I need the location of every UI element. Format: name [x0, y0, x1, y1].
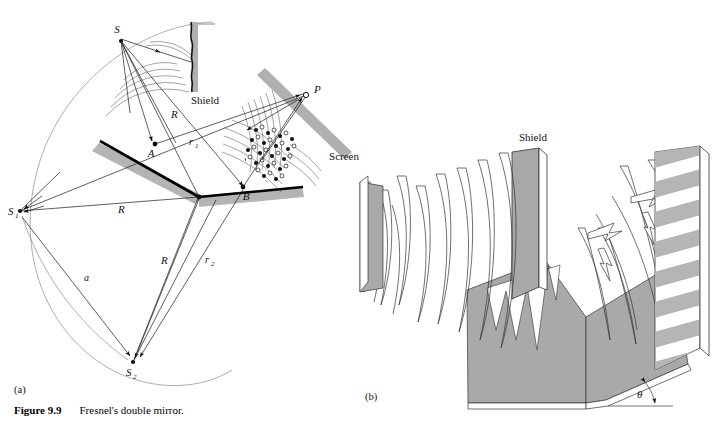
panel-a-group: S S 1 S 2 A B P Shield Screen R R R r 1 … [8, 22, 359, 396]
source-point-marker [119, 39, 123, 43]
figure-number: Figure 9.9 [14, 404, 61, 416]
figure-9-9-illustration: S S 1 S 2 A B P Shield Screen R R R r 1 … [0, 0, 726, 431]
label-radius-3: R [160, 254, 168, 266]
point-p-marker [303, 92, 308, 97]
label-shield-b: Shield [519, 131, 548, 143]
shield-panel-edge-3d [539, 148, 547, 290]
label-ray-r1-subscript: 1 [195, 142, 199, 150]
rays-from-image-source-2 [22, 190, 243, 362]
propagation-arrows-3d [588, 189, 666, 281]
label-image-source-1-subscript: 1 [15, 212, 19, 220]
label-image-source-2: S [126, 366, 132, 378]
panel-b-label: (b) [365, 391, 378, 403]
label-ray-r2-subscript: 2 [211, 260, 215, 268]
figure-caption-text: Fresnel's double mirror. [79, 404, 183, 416]
label-radius-2: R [117, 203, 125, 215]
screen-bar [257, 68, 352, 159]
left-mirror-plane-edge [468, 403, 586, 409]
image-source-2-marker [131, 360, 135, 364]
figure-caption: Figure 9.9 Fresnel's double mirror. [14, 400, 344, 418]
label-image-source-1: S [8, 205, 14, 217]
interference-pattern [242, 125, 296, 188]
wavefronts-from-source [106, 41, 192, 116]
figure-container: S S 1 S 2 A B P Shield Screen R R R r 1 … [0, 0, 726, 431]
label-ray-r1: r [189, 136, 193, 147]
image-source-1-marker [18, 209, 22, 213]
label-point-a: A [147, 147, 155, 159]
label-point-p: P [313, 83, 321, 95]
label-ray-r2: r [205, 254, 209, 265]
shield-body [192, 22, 198, 92]
label-radius-1: R [170, 108, 178, 120]
label-image-source-2-subscript: 2 [133, 373, 137, 381]
label-separation-a: a [84, 272, 89, 283]
panel-b-group: Shield [360, 131, 712, 409]
label-shield-a: Shield [191, 94, 220, 106]
point-a-marker [153, 142, 158, 147]
label-screen: Screen [329, 150, 359, 162]
label-angle-theta: θ [637, 388, 643, 400]
point-b-marker [241, 185, 246, 190]
screen-panel-edge-3d [700, 146, 709, 356]
point-markers [18, 39, 309, 364]
mirror-vertex-marker [197, 195, 202, 200]
panel-a-label: (a) [14, 384, 26, 396]
label-source-s: S [114, 23, 120, 35]
label-point-b: B [243, 190, 250, 202]
left-backplane-edge-3d [360, 176, 368, 292]
